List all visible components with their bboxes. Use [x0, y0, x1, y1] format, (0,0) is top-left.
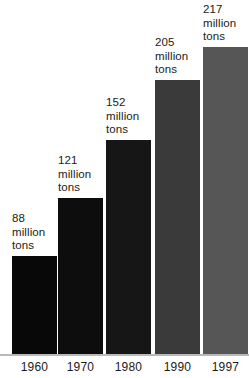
bar-rect-1990: [155, 80, 200, 355]
bar-rect-1997: [203, 47, 248, 355]
bar-chart-figure: 88 million tons 121 million tons 152 mil…: [0, 0, 249, 378]
bar-group-1990: 205 million tons: [155, 0, 200, 355]
bar-rect-1960: [12, 256, 57, 355]
bar-value-label-1970: 121 million tons: [58, 154, 91, 194]
x-tick-label-1970: 1970: [58, 358, 103, 376]
bar-value-label-1980: 152 million tons: [106, 96, 139, 136]
x-tick-label-1997: 1997: [203, 358, 248, 376]
plot-area: 88 million tons 121 million tons 152 mil…: [0, 0, 249, 355]
bar-rect-1980: [106, 140, 151, 355]
bar-value-label-1960: 88 million tons: [12, 212, 45, 252]
bar-group-1980: 152 million tons: [106, 0, 151, 355]
x-tick-label-1990: 1990: [155, 358, 200, 376]
bar-group-1997: 217 million tons: [203, 0, 248, 355]
x-tick-label-1980: 1980: [106, 358, 151, 376]
bar-group-1960: 88 million tons: [12, 0, 57, 355]
bar-value-label-1990: 205 million tons: [155, 36, 188, 76]
bar-group-1970: 121 million tons: [58, 0, 103, 355]
bar-value-label-1997: 217 million tons: [203, 3, 236, 43]
x-axis-tick-labels: 1960 1970 1980 1990 1997: [0, 358, 249, 378]
bar-rect-1970: [58, 198, 103, 355]
x-axis-baseline: [0, 354, 249, 356]
x-tick-label-1960: 1960: [12, 358, 57, 376]
